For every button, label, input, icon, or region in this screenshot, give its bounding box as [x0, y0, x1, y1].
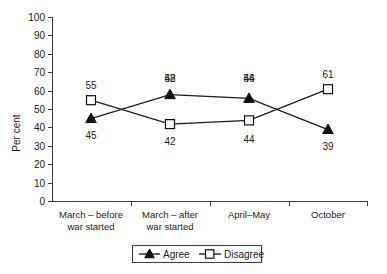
agree-value-labels: 45 58 56 39: [85, 73, 334, 152]
open-square-marker: [166, 120, 175, 129]
open-square-marker: [245, 116, 254, 125]
data-value-label: 42: [164, 136, 176, 147]
data-value-label: 61: [322, 69, 334, 80]
series-agree-line: [91, 95, 328, 130]
filled-triangle-marker: [165, 89, 176, 99]
chart-legend: Agree Disagree: [133, 246, 265, 263]
y-tick-label: 30: [34, 141, 46, 152]
x-category-label: March – before: [59, 209, 123, 220]
legend-label-disagree: Disagree: [224, 249, 264, 260]
x-category-label: April–May: [228, 209, 270, 220]
line-chart: 0 10 20 30 40 50 60 70 80 90 100 Per cen…: [0, 0, 387, 274]
legend-label-agree: Agree: [163, 249, 190, 260]
y-tick-label: 80: [34, 49, 46, 60]
x-category-label: March – after: [142, 209, 198, 220]
x-category-label: October: [311, 209, 345, 220]
open-square-marker: [324, 85, 333, 94]
series-disagree: [87, 85, 333, 129]
data-value-label: 45: [85, 130, 97, 141]
filled-triangle-marker: [323, 124, 334, 134]
data-value-label: 55: [85, 80, 97, 91]
data-value-label: 39: [322, 141, 334, 152]
y-tick-label: 90: [34, 30, 46, 41]
disagree-lower-value-labels: 42 44: [164, 134, 255, 147]
y-tick-label: 60: [34, 86, 46, 97]
x-axis-ticks: [132, 202, 368, 207]
y-tick-label: 20: [34, 159, 46, 170]
series-disagree-line: [91, 89, 328, 124]
y-tick-label: 0: [39, 196, 45, 207]
y-axis-ticks: [48, 17, 53, 201]
x-category-label-line2: war started: [67, 221, 115, 232]
data-value-label: 56: [243, 73, 255, 84]
y-tick-label: 10: [34, 178, 46, 189]
y-tick-label: 50: [34, 104, 46, 115]
y-tick-label: 100: [28, 12, 45, 23]
data-value-label: 58: [164, 73, 176, 84]
chart-canvas: 0 10 20 30 40 50 60 70 80 90 100 Per cen…: [0, 0, 387, 274]
disagree-value-labels: 55 42 44 61: [85, 69, 334, 91]
y-axis-tick-labels: 0 10 20 30 40 50 60 70 80 90 100: [28, 12, 45, 207]
y-tick-label: 40: [34, 122, 46, 133]
open-square-icon: [206, 250, 214, 258]
y-axis-title: Per cent: [11, 114, 22, 151]
x-category-label-line2: war started: [146, 221, 194, 232]
open-square-marker: [87, 96, 96, 105]
x-axis-category-labels: March – before war started March – after…: [59, 209, 345, 232]
series-agree: [86, 89, 334, 133]
data-value-label: 44: [243, 134, 255, 145]
y-tick-label: 70: [34, 67, 46, 78]
